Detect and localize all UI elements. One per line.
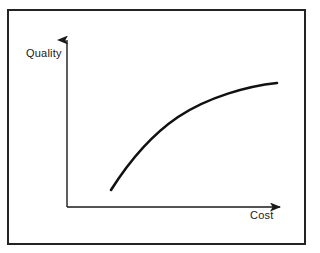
x-axis-label: Cost	[250, 209, 273, 221]
cost-quality-figure: Quality Cost	[0, 0, 320, 253]
diagram-canvas: Quality Cost	[0, 0, 320, 253]
y-axis-label: Quality	[26, 47, 62, 59]
